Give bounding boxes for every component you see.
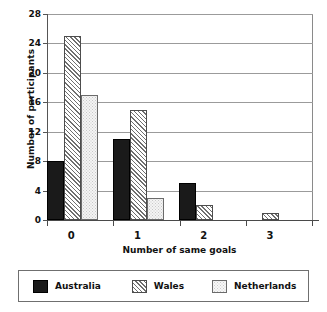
x-axis-tick [47, 220, 48, 226]
y-axis-tick [43, 14, 48, 15]
legend-item-netherlands[interactable]: Netherlands [212, 280, 296, 293]
y-axis-tick [43, 132, 48, 133]
chart-legend: AustraliaWalesNetherlands [18, 270, 309, 302]
y-axis-tick-label: 28 [28, 9, 41, 19]
plot-area: 0481216202428 [47, 14, 312, 220]
x-axis-tick [113, 220, 114, 226]
bar-australia-0 [47, 161, 64, 220]
bar-australia-1 [113, 139, 130, 220]
bar-netherlands-1 [147, 198, 164, 220]
y-axis-tick-label: 16 [28, 97, 41, 107]
y-axis-tick [43, 102, 48, 103]
bar-wales-2 [196, 205, 213, 220]
gridline [48, 73, 313, 74]
x-axis-tick [312, 220, 313, 226]
x-axis-tick-label: 0 [68, 230, 75, 241]
y-axis-tick-label: 4 [35, 186, 41, 196]
light-dotted-swatch [212, 280, 227, 293]
solid-black-swatch [33, 280, 48, 293]
y-axis-tick-label: 20 [28, 68, 41, 78]
x-axis-tick-label: 2 [200, 230, 207, 241]
legend-item-australia[interactable]: Australia [33, 280, 101, 293]
y-axis-tick-label: 8 [35, 156, 41, 166]
bar-netherlands-0 [81, 95, 98, 220]
bar-chart-figure: Number of participants 0481216202428 012… [0, 0, 327, 312]
bar-wales-0 [64, 36, 81, 220]
y-axis-tick-label: 12 [28, 127, 41, 137]
plot-right-border [312, 14, 313, 220]
bar-australia-2 [179, 183, 196, 220]
y-axis-tick [43, 43, 48, 44]
legend-item-wales[interactable]: Wales [132, 280, 184, 293]
legend-label: Wales [154, 281, 184, 291]
legend-label: Netherlands [234, 281, 296, 291]
y-axis-tick [43, 73, 48, 74]
x-axis-tick [246, 220, 247, 226]
gridline [48, 14, 313, 15]
x-axis-tick-label: 3 [266, 230, 273, 241]
x-axis-line [47, 220, 319, 221]
x-axis-tick-label: 1 [134, 230, 141, 241]
diagonal-hatch-swatch [132, 280, 147, 293]
legend-label: Australia [55, 281, 101, 291]
y-axis-tick-label: 0 [35, 215, 41, 225]
y-axis-tick-label: 24 [28, 38, 41, 48]
bar-wales-1 [130, 110, 147, 220]
bar-wales-3 [262, 213, 279, 220]
x-axis-tick [180, 220, 181, 226]
gridline [48, 43, 313, 44]
x-axis-title: Number of same goals [47, 245, 312, 255]
